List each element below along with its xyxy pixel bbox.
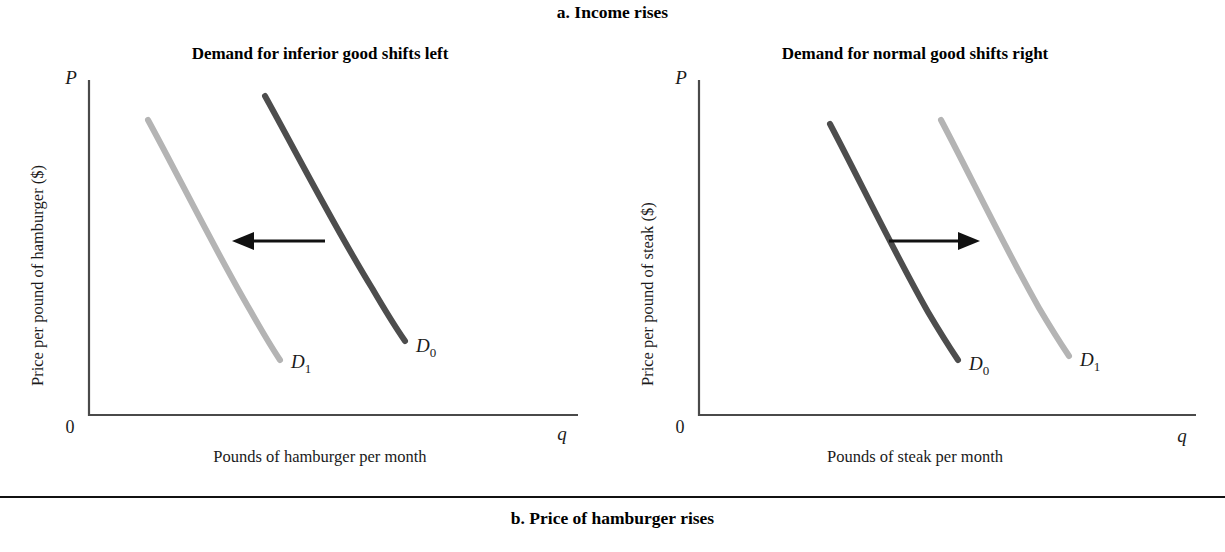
right-y-axis-caption: Price per pound of steak ($) — [638, 202, 658, 386]
right-curve-d0-subscript: 0 — [983, 363, 990, 378]
left-y-axis-caption: Price per pound of hamburger ($) — [28, 165, 48, 386]
section-divider — [0, 496, 1225, 498]
right-curve-d0-label: D0 — [968, 353, 989, 378]
economics-figure: a. Income rises Demand for inferior good… — [0, 0, 1225, 552]
right-curve-d1-subscript: 1 — [1094, 359, 1101, 374]
right-x-axis-symbol: q — [1177, 425, 1187, 446]
section-b-title: b. Price of hamburger rises — [0, 508, 1225, 529]
left-x-axis-caption: Pounds of hamburger per month — [60, 447, 580, 467]
right-y-axis-symbol: P — [674, 67, 687, 88]
right-x-axis-caption: Pounds of steak per month — [655, 447, 1175, 467]
right-curve-d1-label: D1 — [1079, 349, 1100, 374]
right-panel-plot: P q 0 D0 D1 — [0, 0, 1225, 500]
right-origin-label: 0 — [676, 417, 685, 437]
right-shift-arrow — [889, 232, 980, 250]
